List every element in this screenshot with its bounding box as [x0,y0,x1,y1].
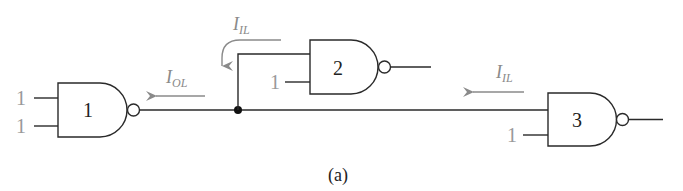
gate2-input-current-arrow-icon [222,40,281,66]
gate3-label: 3 [572,109,582,131]
logic-fanout-diagram: 1 1 1 2 1 3 1 IIL IOL IIL (a) [0,0,683,191]
gate1-output-current-label: IOL [165,67,188,90]
gate1-input-a-label: 1 [16,87,26,109]
gate2-label: 2 [333,57,343,79]
gate1-label: 1 [83,99,93,121]
nand-gate-1: 1 1 1 [16,83,140,137]
gate1-input-b-label: 1 [16,115,26,137]
nand-gate-3: 3 1 [507,93,663,146]
figure-caption: (a) [328,165,348,186]
gate2-input-current-label: IIL [232,14,250,37]
gate2-body [310,40,378,94]
gate3-input-b-label: 1 [507,124,517,146]
gate2-input-b-label: 1 [270,71,280,93]
gate3-inversion-bubble [617,114,629,126]
gate2-inversion-bubble [379,61,391,73]
gate1-inversion-bubble [128,104,140,116]
nand-gate-2: 2 1 [270,40,431,94]
gate3-body [548,93,617,146]
gate3-input-current-label: IIL [495,62,513,85]
